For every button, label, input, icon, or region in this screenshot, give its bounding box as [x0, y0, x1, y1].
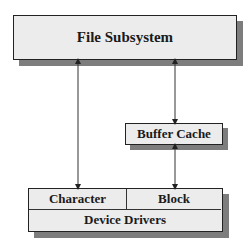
connection-arrows — [0, 0, 251, 247]
